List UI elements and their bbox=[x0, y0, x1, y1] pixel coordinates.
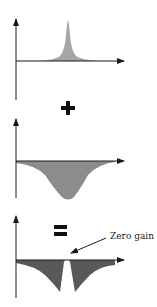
right-dip-fill bbox=[69, 260, 115, 292]
dip-fill bbox=[16, 161, 115, 200]
annotation-arrow bbox=[71, 238, 106, 253]
peak-fill bbox=[16, 20, 100, 61]
equals-operator bbox=[54, 225, 67, 236]
panel-sum bbox=[16, 216, 124, 298]
plus-operator bbox=[61, 101, 75, 115]
panel-peak bbox=[16, 19, 124, 100]
diagram-canvas bbox=[0, 0, 157, 307]
zero-gain-label: Zero gain bbox=[110, 231, 154, 241]
left-dip-fill bbox=[16, 260, 65, 292]
panel-dip bbox=[16, 119, 124, 200]
